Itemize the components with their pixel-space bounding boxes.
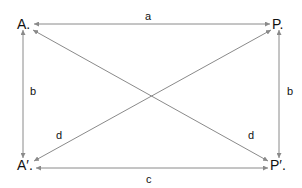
point-p-label: P. [272,17,283,31]
edge-a-label: a [145,11,151,22]
diagonal-p-aprime-line [34,30,271,161]
diagram-lines [0,0,302,188]
diagonal-d-right-label: d [248,130,254,141]
diagonal-d-left-label: d [56,130,62,141]
diagonal-a-pprime-line [33,30,268,161]
point-a-label: A. [17,17,30,31]
point-a-prime-label: A′. [17,158,33,172]
point-p-prime-label: P′. [270,158,286,172]
edge-b-right-label: b [287,86,293,97]
edge-c-label: c [146,174,152,185]
rectangle-diagram: A. P. A′. P′. a b b c d d [0,0,302,188]
edge-b-left-label: b [30,86,36,97]
